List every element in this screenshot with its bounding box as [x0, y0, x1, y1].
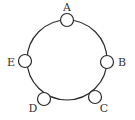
outer-ring	[27, 20, 107, 100]
circular-seating-diagram: ABCDE	[0, 0, 135, 120]
node-circle	[19, 55, 32, 68]
node-a: A	[61, 1, 74, 27]
node-b: B	[101, 56, 127, 70]
node-label: A	[62, 1, 72, 14]
node-label: B	[118, 56, 126, 69]
node-d: D	[29, 93, 51, 116]
node-label: D	[29, 102, 38, 115]
node-e: E	[7, 55, 32, 70]
node-label: E	[7, 56, 15, 69]
node-c: C	[89, 91, 109, 116]
node-circle	[38, 93, 51, 106]
node-label: C	[100, 102, 108, 115]
node-circle	[101, 56, 114, 69]
node-circle	[61, 14, 74, 27]
